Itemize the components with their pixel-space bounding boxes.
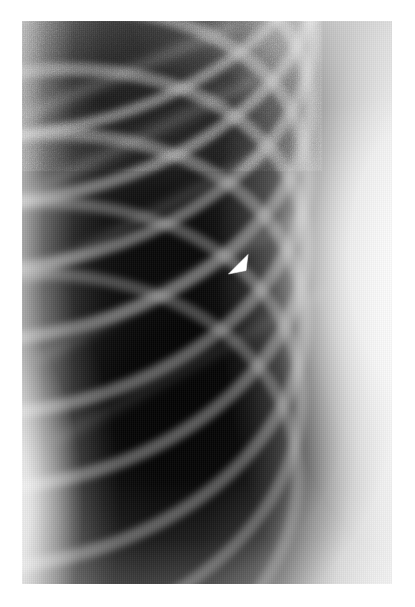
rib-arc bbox=[22, 151, 343, 584]
inferior-margin-lift bbox=[22, 21, 392, 584]
posterior-rib-band bbox=[58, 293, 322, 439]
chest-wall-soft-tissue bbox=[22, 21, 392, 584]
lung-apex-shadow bbox=[22, 21, 392, 584]
posterior-rib-band bbox=[22, 81, 254, 197]
film-grain-texture bbox=[22, 21, 322, 171]
mid-lung-shadow bbox=[22, 21, 392, 584]
scanline-texture-horizontal bbox=[22, 21, 392, 584]
left-margin-soft-tissue bbox=[22, 21, 392, 584]
posterior-rib-band bbox=[40, 217, 300, 359]
apical-brightening bbox=[22, 21, 392, 584]
posterior-rib-group bbox=[22, 27, 322, 439]
rib-arc bbox=[22, 21, 360, 262]
rib-arc bbox=[22, 21, 356, 400]
radiograph-film bbox=[22, 21, 392, 584]
rib-arc bbox=[22, 21, 360, 192]
rib-arc bbox=[22, 21, 353, 473]
mediastinal-border bbox=[22, 21, 392, 584]
rib-arc bbox=[22, 21, 359, 331]
rib-arcs bbox=[22, 21, 392, 584]
arrowhead-icon bbox=[227, 253, 249, 276]
scanline-texture-vertical bbox=[22, 21, 392, 584]
posterior-rib-band bbox=[22, 27, 232, 117]
film-base-tone bbox=[22, 21, 392, 584]
anterior-rib-group bbox=[22, 21, 360, 584]
radiograph-page bbox=[0, 0, 415, 607]
rib-arc bbox=[22, 79, 348, 584]
rib-arc bbox=[22, 225, 337, 584]
lower-lung-field-shadow bbox=[22, 21, 392, 584]
rib-arc bbox=[22, 21, 351, 546]
